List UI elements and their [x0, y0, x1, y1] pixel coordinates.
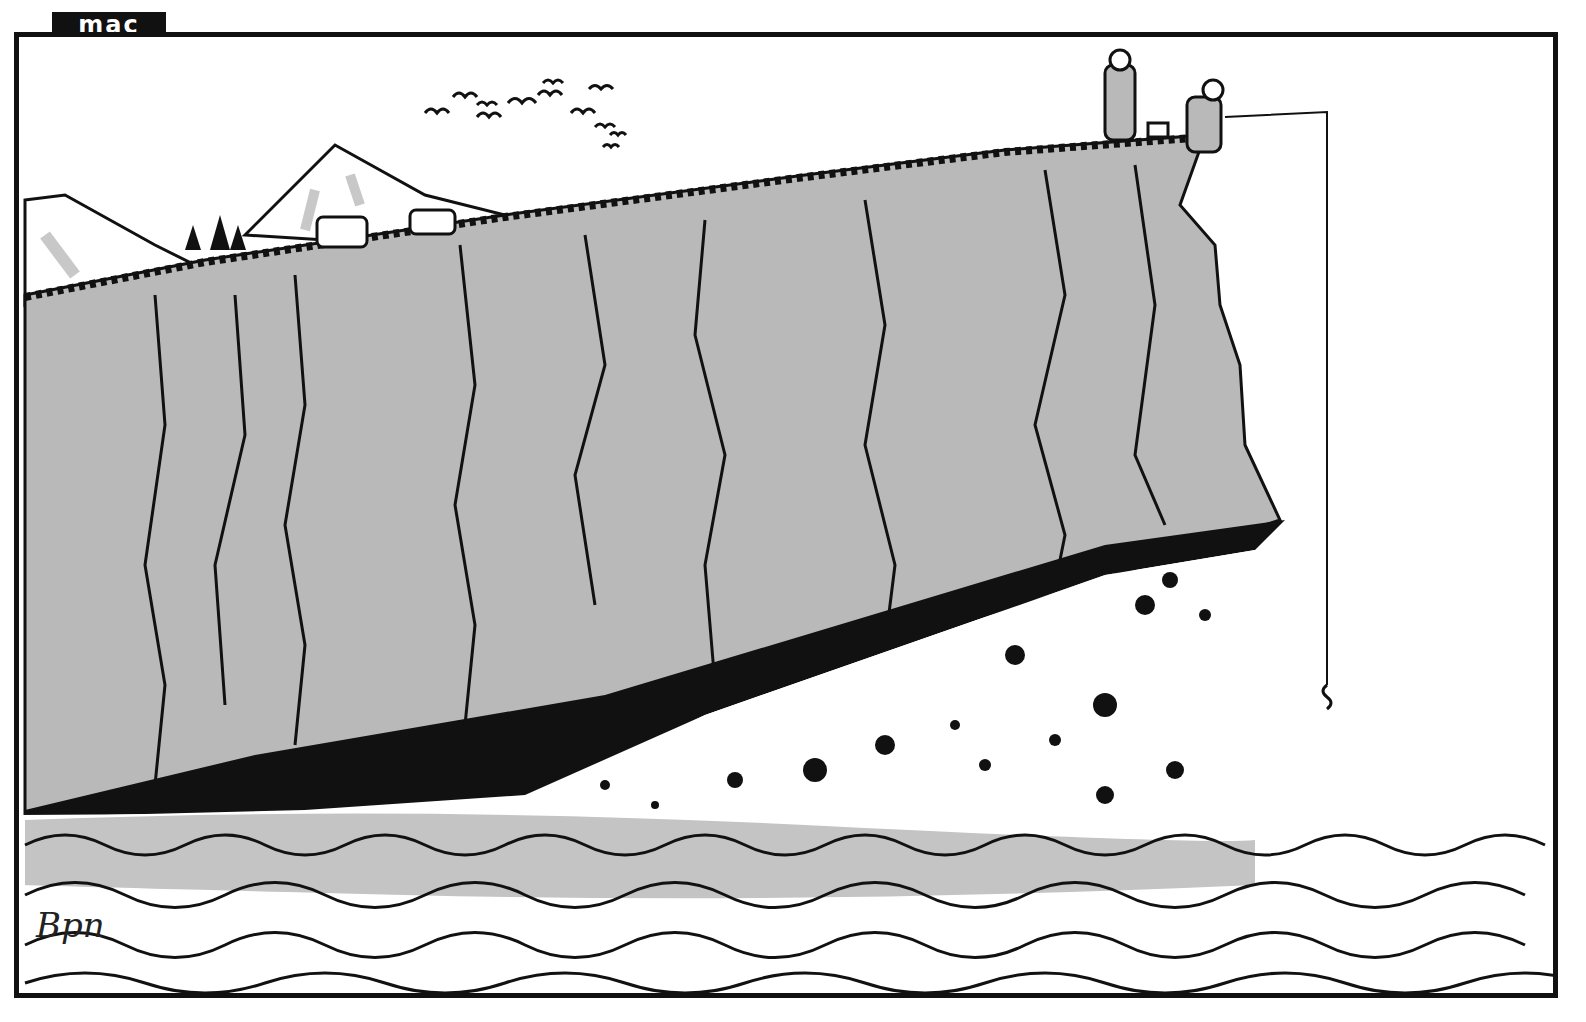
- birds-flock-icon: [425, 80, 626, 147]
- tackle-box-icon: [1148, 123, 1168, 137]
- pine-trees-icon: [185, 215, 246, 250]
- fishing-hook-icon: [1323, 685, 1331, 709]
- fisherman-icon: [1187, 80, 1223, 152]
- standing-man-icon: [1105, 50, 1135, 140]
- cartoon-illustration: [19, 37, 1558, 998]
- artist-signature: Bpn: [36, 905, 105, 945]
- cartoon-frame: [14, 32, 1558, 998]
